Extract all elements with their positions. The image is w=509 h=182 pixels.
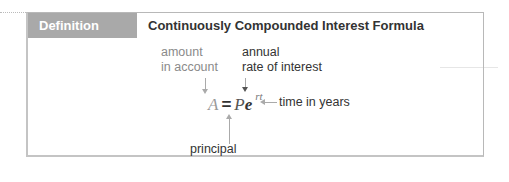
definition-title: Continuously Compounded Interest Formula <box>148 13 424 38</box>
arrow-head-icon <box>242 87 248 92</box>
arrow-head-icon <box>226 114 232 119</box>
dotted-leader <box>0 12 26 13</box>
rate-label: annual rate of interest <box>242 45 322 75</box>
formula: A=Pert <box>208 93 263 115</box>
definition-tag: Definition <box>28 13 137 38</box>
principal-label: principal <box>190 142 237 157</box>
amount-label: amount in account <box>161 45 218 75</box>
time-arrow <box>263 102 277 103</box>
arrow-head-icon <box>260 99 265 105</box>
definition-box: Definition Continuously Compounded Inter… <box>26 12 484 157</box>
time-label: time in years <box>279 95 350 110</box>
principal-arrow <box>229 117 230 144</box>
